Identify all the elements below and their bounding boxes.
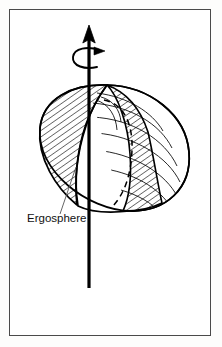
figure-root: Ergosphere <box>0 0 222 347</box>
ergosphere-ellipsoid <box>40 85 190 212</box>
ergosphere-diagram: Ergosphere <box>0 0 222 347</box>
ergosphere-label: Ergosphere <box>27 212 86 224</box>
spin-arrowhead-icon <box>94 47 105 55</box>
